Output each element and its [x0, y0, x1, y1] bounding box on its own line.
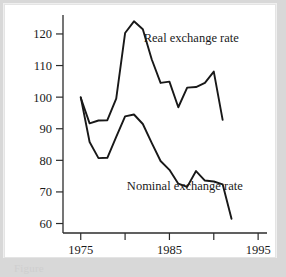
y-tick-label: 90 — [40, 122, 53, 136]
y-tick-label: 110 — [34, 59, 52, 73]
exchange-rate-line-chart: 60708090100110120 197519851995 Real exch… — [5, 5, 275, 257]
y-tick-label: 60 — [40, 217, 53, 231]
y-tick-label: 120 — [33, 27, 52, 41]
x-tick-label: 1985 — [157, 243, 182, 257]
y-tick-label: 80 — [40, 154, 53, 168]
series-line — [81, 97, 232, 219]
x-tick-label: 1975 — [68, 243, 93, 257]
series-annotation-label: Real exchange rate — [144, 31, 240, 45]
y-tick-label: 70 — [40, 185, 53, 199]
y-tick-label: 100 — [33, 91, 52, 105]
x-axis-ticks: 197519851995 — [68, 233, 270, 257]
figure-caption: Figure — [14, 262, 44, 274]
x-tick-label: 1995 — [246, 243, 271, 257]
y-axis-ticks: 60708090100110120 — [33, 27, 63, 231]
figure-frame: 60708090100110120 197519851995 Real exch… — [4, 4, 276, 258]
series-annotations: Real exchange rateNominal exchange rate — [127, 31, 243, 193]
series-annotation-label: Nominal exchange rate — [127, 179, 243, 193]
